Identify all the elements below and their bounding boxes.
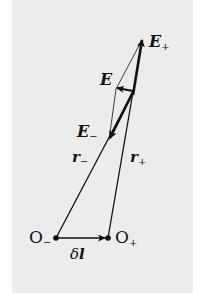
label-e-minus-sub: − [89,131,97,142]
label-e-minus: E− [77,124,98,140]
label-o-minus-sub: − [43,237,51,248]
label-r-minus-sub: − [80,156,88,167]
label-e-minus-main: E [77,122,89,141]
label-r-plus: r+ [130,150,146,165]
label-e-plus: E+ [149,34,170,50]
label-e: E [100,72,112,88]
label-r-plus-sub: + [138,156,146,167]
label-r-plus-main: r [130,148,138,166]
label-o-plus-main: O [115,227,129,247]
label-delta-l: δl [70,247,85,262]
dipole-field-diagram [0,0,202,299]
o-minus-point [53,235,59,241]
e-resultant-arrow [117,88,133,91]
label-o-plus-sub: + [129,237,137,248]
label-o-plus: O+ [115,229,137,246]
label-e-main: E [100,70,112,89]
label-delta-l-vector: l [79,245,85,263]
label-o-minus: O− [29,229,51,246]
label-r-minus-main: r [72,148,80,166]
label-e-plus-sub: + [161,41,169,52]
o-plus-point [105,235,111,241]
label-delta-symbol: δ [70,245,79,263]
label-o-minus-main: O [29,227,43,247]
label-r-minus: r− [72,150,88,165]
label-e-plus-main: E [149,32,161,51]
